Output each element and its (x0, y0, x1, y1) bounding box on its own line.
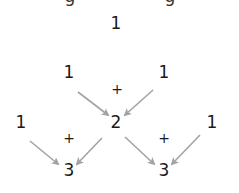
arrow-icon (78, 92, 108, 115)
row0-node-0: 1 (111, 15, 122, 32)
row3-node-0: 3 (64, 162, 75, 179)
plus-operator: + (63, 131, 75, 145)
row3-node-1: 3 (159, 162, 170, 179)
arrow-icon (125, 90, 153, 115)
row2-node-1: 2 (111, 114, 122, 131)
row2-node-2: 1 (207, 114, 218, 131)
arrow-icon (77, 138, 102, 164)
arrow-icon (30, 141, 58, 164)
arrow-icon (172, 135, 200, 164)
arrow-icon (125, 137, 154, 164)
row1-node-1: 1 (159, 64, 170, 81)
plus-operator: + (111, 82, 123, 96)
row1-node-0: 1 (64, 64, 75, 81)
plus-operator: + (158, 131, 170, 145)
pascal-addition-diagram: g g 1 1 1 + 1 2 1 + + 3 3 (0, 0, 239, 193)
row2-node-0: 1 (16, 114, 27, 131)
